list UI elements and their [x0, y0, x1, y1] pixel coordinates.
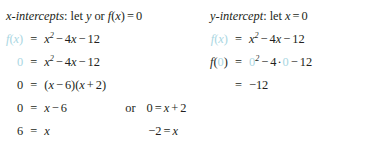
row4-x: x — [44, 101, 50, 115]
row4-plus: + — [169, 101, 180, 115]
row1-const-12: 12 — [88, 32, 100, 46]
rrow1-minus-2: − — [281, 32, 292, 46]
rrow2-equals: = — [232, 51, 245, 74]
heading-word-or: or — [91, 9, 107, 23]
row3-rhs: (x−6)(x+2) — [40, 74, 106, 97]
heading-equals: = — [125, 9, 136, 23]
rrow1-paren-close: ) — [224, 32, 228, 46]
rrow2-sub-zero-2: 0 — [283, 55, 289, 69]
row3-tail — [106, 74, 186, 97]
row2-minus-2: − — [77, 55, 88, 69]
x-intercepts-equations: f(x) = x2−4x−12 0 = x2−4x−12 0 = (x−6)(x… — [6, 28, 186, 143]
heading-equals-2: = — [291, 9, 302, 23]
row1-lhs: f(x) — [6, 28, 27, 51]
rrow3-equals: = — [232, 74, 245, 97]
equation-row: f(x) = x2−4x−12 — [6, 28, 186, 51]
row4-zero-2: 0 — [139, 101, 153, 115]
rrow1-const-12: 12 — [292, 32, 304, 46]
rrow1-equals: = — [232, 28, 245, 51]
row3-minus: − — [54, 78, 65, 92]
row2-const-12: 12 — [88, 55, 100, 69]
y-intercept-column: y-intercept:letx=0 f(x) = x2−4x−12 f(0) … — [196, 0, 367, 97]
row2-zero: 0 — [17, 55, 23, 69]
row3-equals: = — [27, 74, 40, 97]
rrow2-minus-2: − — [289, 55, 300, 69]
rrow3-lhs — [210, 74, 232, 97]
x-intercepts-column: x-intercepts:letyorf(x)=0 f(x) = x2−4x−1… — [0, 0, 196, 143]
rrow1-rhs: x2−4x−12 — [245, 28, 312, 51]
row5-lhs: 6 — [6, 120, 27, 143]
row2-lhs: 0 — [6, 51, 27, 74]
row2-rhs: x2−4x−12 — [40, 51, 106, 74]
row2-tail — [106, 51, 186, 74]
row4-tail: or0=x+2 — [106, 97, 186, 120]
equation-row: 6 = x −2=x — [6, 120, 186, 143]
equation-row: 0 = x−6 or0=x+2 — [6, 97, 186, 120]
row1-x2: x — [71, 32, 77, 46]
row2-equals: = — [27, 51, 40, 74]
row1-tail — [106, 28, 186, 51]
row5-tail: −2=x — [106, 120, 186, 143]
row4-two: 2 — [180, 101, 186, 115]
row1-equals: = — [27, 28, 40, 51]
y-intercept-equations: f(x) = x2−4x−12 f(0) = 02−4·0−12 = −12 — [210, 28, 312, 97]
row5-neg-two: −2 — [122, 124, 161, 138]
equation-row: f(0) = 02−4·0−12 — [210, 51, 312, 74]
rrow1-exponent: 2 — [254, 31, 258, 40]
row2-x2: x — [71, 55, 77, 69]
row4-lhs: 0 — [6, 97, 27, 120]
heading-var-x: x — [285, 9, 291, 23]
row4-connector-or: or — [122, 101, 138, 115]
row5-x2: x — [172, 124, 178, 138]
rrow2-const-12: 12 — [300, 55, 312, 69]
row3-lhs: 0 — [6, 74, 27, 97]
heading-label-x: x-intercepts — [6, 9, 64, 23]
row4-rhs: x−6 — [40, 97, 106, 120]
row4-minus: − — [50, 101, 61, 115]
row5-six: 6 — [17, 124, 23, 138]
rrow3-result-neg-12: −12 — [249, 78, 268, 92]
equation-row: = −12 — [210, 74, 312, 97]
row4-six: 6 — [61, 101, 67, 115]
row4-equals: = — [27, 97, 40, 120]
row5-equals-2: = — [161, 124, 172, 138]
row1-paren-close: ) — [19, 32, 23, 46]
rrow1-minus-1: − — [259, 32, 270, 46]
equation-row: 0 = (x−6)(x+2) — [6, 74, 186, 97]
row3-plus: + — [85, 78, 96, 92]
row4-equals-2: = — [153, 101, 164, 115]
equation-row: f(x) = x2−4x−12 — [210, 28, 312, 51]
rrow2-rhs: 02−4·0−12 — [245, 51, 312, 74]
row1-rhs: x2−4x−12 — [40, 28, 106, 51]
row1-minus-2: − — [77, 32, 88, 46]
row3-zero: 0 — [17, 78, 23, 92]
rrow2-lhs: f(0) — [210, 51, 232, 74]
heading-word-let: let — [67, 9, 85, 23]
row1-minus-1: − — [54, 32, 65, 46]
y-intercept-heading: y-intercept:letx=0 — [210, 9, 367, 23]
row5-equals: = — [27, 120, 40, 143]
row4-zero: 0 — [17, 101, 23, 115]
row5-x: x — [44, 124, 50, 138]
heading-value-zero: 0 — [136, 9, 142, 23]
row2-minus-1: − — [54, 55, 65, 69]
heading-value-zero-2: 0 — [302, 9, 308, 23]
rrow2-minus-1: − — [259, 55, 270, 69]
equation-row: 0 = x2−4x−12 — [6, 51, 186, 74]
row3-paren-close-2: ) — [102, 78, 106, 92]
worksheet-page: x-intercepts:letyorf(x)=0 f(x) = x2−4x−1… — [0, 0, 367, 156]
x-intercepts-heading: x-intercepts:letyorf(x)=0 — [6, 9, 196, 23]
heading-label-y: y-intercept — [210, 9, 263, 23]
row5-rhs: x — [40, 120, 106, 143]
heading-word-let-2: let — [267, 9, 285, 23]
rrow3-rhs: −12 — [245, 74, 312, 97]
rrow2-paren-close: ) — [224, 55, 228, 69]
rrow1-lhs: f(x) — [210, 28, 232, 51]
